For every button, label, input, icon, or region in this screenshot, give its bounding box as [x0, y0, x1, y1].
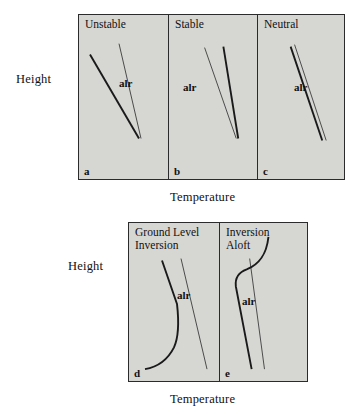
stability-diagram-figure: Height Unstable alr a Stable alr b: [0, 0, 361, 414]
panel-b-letter: b: [174, 165, 180, 177]
bottom-height-axis-label: Height: [68, 259, 103, 274]
panel-a-plot: [79, 15, 168, 179]
panel-c-environmental-line: [291, 47, 323, 141]
panel-b-title: Stable: [175, 18, 254, 31]
panel-e-inversion-aloft: Inversion Aloft alr e: [219, 223, 307, 381]
top-height-axis-label: Height: [16, 72, 51, 87]
panel-e-title: Inversion Aloft: [226, 226, 304, 251]
panel-d-environmental-curve: [145, 261, 178, 370]
panel-d-alr-line: [181, 259, 207, 370]
panel-c-neutral: Neutral alr c: [257, 15, 343, 179]
panel-d-ground-level-inversion: Ground Level Inversion alr d: [129, 223, 219, 381]
panel-b-stable: Stable alr b: [168, 15, 257, 179]
panel-c-alr-label: alr: [294, 81, 307, 93]
panel-d-alr-label: alr: [177, 289, 190, 301]
panel-e-letter: e: [225, 367, 230, 379]
panel-e-alr-label: alr: [242, 295, 255, 307]
panel-d-title: Ground Level Inversion: [135, 226, 216, 251]
panel-b-environmental-line: [223, 47, 238, 139]
panel-a-unstable: Unstable alr a: [79, 15, 168, 179]
panel-b-plot: [169, 15, 257, 179]
top-panel-group: Unstable alr a Stable alr b Neutral alr …: [78, 14, 345, 180]
bottom-panel-group: Ground Level Inversion alr d Inversion A…: [128, 222, 308, 382]
panel-b-alr-label: alr: [183, 81, 196, 93]
panel-a-title: Unstable: [85, 18, 165, 31]
panel-c-plot: [258, 15, 343, 179]
panel-a-letter: a: [84, 165, 90, 177]
panel-c-title: Neutral: [264, 18, 340, 31]
panel-d-letter: d: [134, 367, 140, 379]
panel-e-alr-line: [250, 259, 265, 370]
panel-a-alr-label: alr: [119, 77, 132, 89]
bottom-temperature-axis-label: Temperature: [170, 392, 235, 407]
top-temperature-axis-label: Temperature: [170, 190, 235, 205]
panel-c-letter: c: [263, 165, 268, 177]
